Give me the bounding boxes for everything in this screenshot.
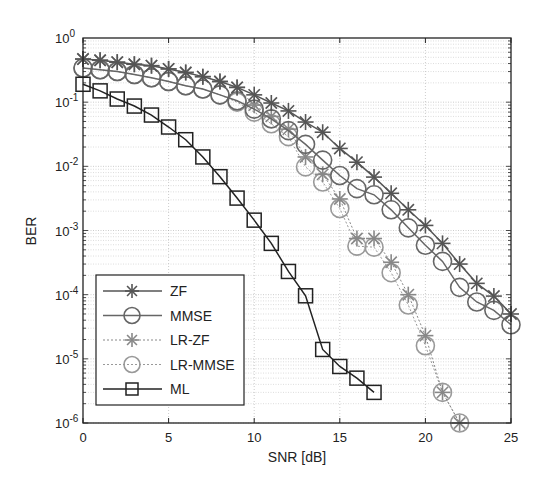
- y-axis-title: BER: [23, 217, 39, 246]
- legend-label: ZF: [170, 283, 187, 299]
- y-tick-label: 10-6: [55, 413, 79, 431]
- y-tick-label: 10-1: [55, 92, 79, 110]
- y-tick-label: 10-3: [55, 221, 79, 239]
- x-tick-label: 0: [79, 430, 86, 445]
- x-tick-label: 15: [333, 430, 347, 445]
- legend: ZFMMSELR-ZFLR-MMSEML: [96, 275, 244, 405]
- y-axis-ticks: 10010-110-210-310-410-510-6: [55, 28, 79, 431]
- y-tick-label: 100: [55, 28, 75, 46]
- x-axis-title: SNR [dB]: [268, 449, 326, 465]
- x-tick-label: 25: [504, 430, 518, 445]
- ber-vs-snr-chart: 0510152025 10010-110-210-310-410-510-6 S…: [0, 0, 546, 493]
- y-tick-label: 10-2: [55, 156, 79, 174]
- legend-label: LR-MMSE: [170, 357, 235, 373]
- x-tick-label: 10: [247, 430, 261, 445]
- x-tick-label: 5: [165, 430, 172, 445]
- y-tick-label: 10-4: [55, 285, 79, 303]
- x-tick-label: 20: [418, 430, 432, 445]
- legend-label: MMSE: [170, 308, 212, 324]
- legend-label: LR-ZF: [170, 332, 210, 348]
- legend-label: ML: [170, 381, 190, 397]
- y-tick-label: 10-5: [55, 349, 79, 367]
